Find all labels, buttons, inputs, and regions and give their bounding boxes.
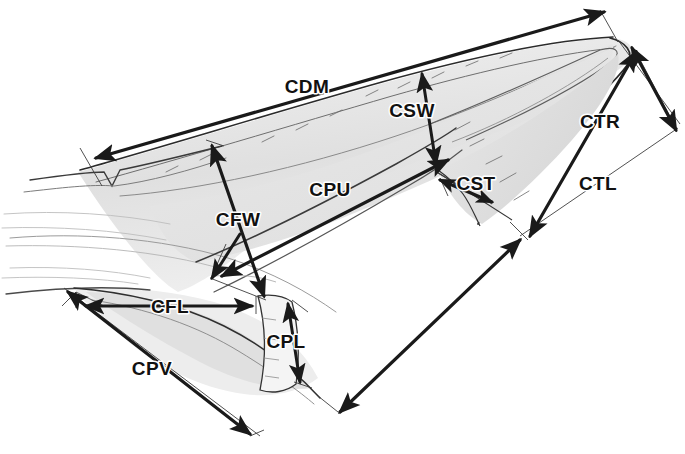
- label-CSW: CSW: [389, 100, 435, 121]
- label-CTR: CTR: [580, 111, 620, 132]
- label-CFW: CFW: [216, 209, 260, 230]
- label-CFL: CFL: [151, 296, 189, 317]
- label-CST: CST: [456, 173, 495, 194]
- figure-container: CDM CSW CTR CTL CPU CST CFW CFL CPL CPV: [0, 0, 685, 454]
- claw-measurement-diagram: CDM CSW CTR CTL CPU CST CFW CFL CPL CPV: [0, 0, 685, 454]
- label-CPV: CPV: [132, 358, 172, 379]
- label-CPU: CPU: [309, 179, 350, 200]
- label-CDM: CDM: [285, 76, 329, 97]
- label-CPL: CPL: [266, 331, 305, 352]
- label-CTL: CTL: [579, 173, 617, 194]
